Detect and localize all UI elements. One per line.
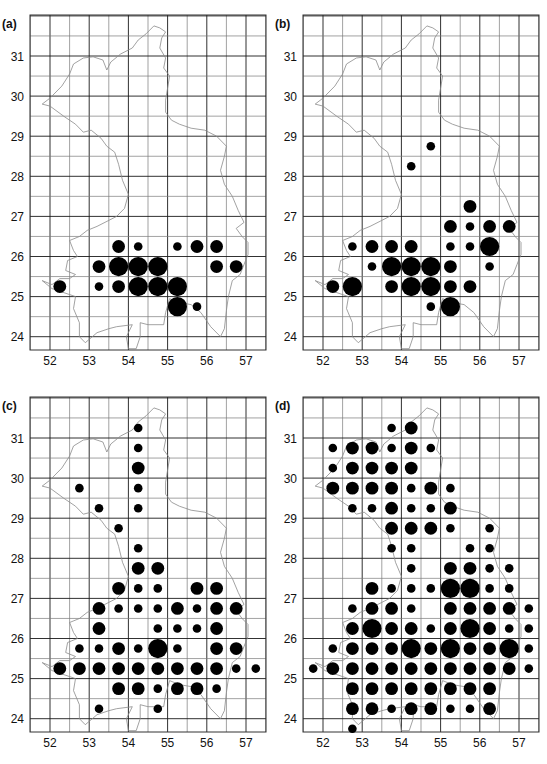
occurrence-dot — [444, 622, 457, 635]
occurrence-dot — [385, 682, 398, 695]
occurrence-dot — [93, 622, 106, 635]
occurrence-dot — [154, 584, 163, 593]
occurrence-dot — [444, 220, 457, 233]
occurrence-dot — [483, 220, 496, 233]
occurrence-dot — [366, 602, 379, 615]
occurrence-dot — [444, 502, 457, 515]
panel-label: (b) — [275, 17, 290, 31]
occurrence-dot — [464, 682, 477, 695]
y-tick-label: 26 — [284, 250, 298, 264]
y-tick-label: 27 — [284, 210, 298, 224]
y-tick-label: 25 — [11, 290, 25, 304]
occurrence-dot — [112, 682, 125, 695]
occurrence-dot — [109, 257, 128, 276]
occurrence-dot — [366, 240, 379, 253]
occurrence-dot — [483, 682, 496, 695]
occurrence-dot — [134, 504, 143, 513]
occurrence-dot — [346, 482, 359, 495]
occurrence-dot — [95, 644, 104, 653]
map-svg: 2425262728293031525354555657(d) — [273, 382, 547, 764]
occurrence-dot — [53, 662, 66, 675]
occurrence-dot — [134, 242, 143, 251]
y-tick-label: 30 — [284, 472, 298, 486]
x-tick-label: 55 — [161, 354, 175, 368]
occurrence-dot — [129, 257, 148, 276]
occurrence-dot — [75, 644, 84, 653]
occurrence-dot — [193, 624, 202, 633]
occurrence-dot — [134, 484, 143, 493]
occurrence-dot — [441, 297, 460, 316]
occurrence-dot — [210, 582, 223, 595]
y-tick-label: 24 — [11, 712, 25, 726]
occurrence-dot — [366, 482, 379, 495]
occurrence-dot — [346, 462, 359, 475]
occurrence-dot — [112, 662, 125, 675]
occurrence-dot — [464, 562, 477, 575]
occurrence-dot — [191, 240, 204, 253]
map-svg: 2425262728293031525354555657(b) — [273, 0, 547, 382]
y-tick-label: 24 — [284, 330, 298, 344]
occurrence-dot — [362, 619, 381, 638]
occurrence-dot — [444, 682, 457, 695]
occurrence-dot — [366, 462, 379, 475]
y-tick-label: 27 — [11, 592, 25, 606]
x-tick-label: 52 — [316, 736, 330, 750]
occurrence-dot — [134, 424, 143, 433]
x-tick-label: 57 — [512, 354, 526, 368]
occurrence-dot — [134, 604, 143, 613]
occurrence-dot — [427, 302, 436, 311]
x-tick-label: 53 — [356, 736, 370, 750]
occurrence-dot — [154, 684, 163, 693]
y-tick-label: 30 — [11, 90, 25, 104]
occurrence-dot — [346, 642, 359, 655]
occurrence-dot — [505, 584, 514, 593]
occurrence-dot — [407, 504, 416, 513]
occurrence-dot — [154, 604, 163, 613]
occurrence-dot — [407, 484, 416, 493]
occurrence-dot — [503, 602, 516, 615]
x-tick-label: 57 — [512, 736, 526, 750]
panel-label: (d) — [275, 399, 290, 413]
occurrence-dot — [402, 277, 421, 296]
occurrence-dot — [405, 662, 418, 675]
occurrence-dot — [132, 682, 145, 695]
map-panel-c: 2425262728293031525354555657(c) — [0, 382, 273, 764]
x-tick-label: 53 — [83, 736, 97, 750]
occurrence-dot — [346, 662, 359, 675]
y-tick-label: 26 — [11, 250, 25, 264]
occurrence-dot — [405, 682, 418, 695]
occurrence-dot — [446, 704, 455, 713]
y-tick-label: 27 — [11, 210, 25, 224]
occurrence-dot — [93, 602, 106, 615]
occurrence-dot — [366, 642, 379, 655]
occurrence-dot — [112, 240, 125, 253]
occurrence-dot — [193, 604, 202, 613]
occurrence-dot — [402, 639, 421, 658]
occurrence-dot — [148, 277, 167, 296]
occurrence-dot — [171, 682, 184, 695]
y-tick-label: 25 — [284, 290, 298, 304]
y-tick-label: 31 — [284, 432, 298, 446]
occurrence-dot — [464, 662, 477, 675]
occurrence-dot — [427, 142, 436, 151]
occurrence-dot — [444, 562, 457, 575]
x-tick-label: 55 — [434, 354, 448, 368]
y-tick-label: 25 — [284, 672, 298, 686]
occurrence-dot — [366, 682, 379, 695]
occurrence-dot — [405, 240, 418, 253]
occurrence-dot — [95, 282, 104, 291]
occurrence-dot — [421, 277, 440, 296]
occurrence-dot — [329, 444, 338, 453]
occurrence-dot — [326, 482, 339, 495]
occurrence-dot — [405, 622, 418, 635]
occurrence-dot — [329, 644, 338, 653]
occurrence-dot — [444, 602, 457, 615]
occurrence-dot — [385, 522, 398, 535]
occurrence-dot — [173, 624, 182, 633]
occurrence-dot — [191, 582, 204, 595]
occurrence-dot — [503, 220, 516, 233]
occurrence-dot — [210, 662, 223, 675]
occurrence-dot — [385, 280, 398, 293]
occurrence-dot — [112, 642, 125, 655]
x-tick-label: 56 — [200, 354, 214, 368]
